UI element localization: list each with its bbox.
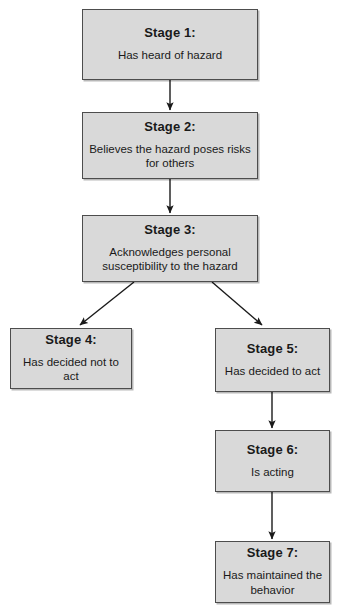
stage-3-title: Stage 3:	[144, 223, 195, 238]
arrow-stage3-to-stage4	[80, 282, 134, 325]
stage-box-1[interactable]: Stage 1: Has heard of hazard	[82, 9, 258, 80]
stage-2-description: Believes the hazard poses risks for othe…	[83, 142, 257, 171]
flowchart-canvas: Stage 1: Has heard of hazard Stage 2: Be…	[0, 0, 360, 613]
stage-box-3[interactable]: Stage 3: Acknowledges personal susceptib…	[82, 215, 258, 282]
connector-layer	[0, 0, 360, 613]
stage-3-description: Acknowledges personal susceptibility to …	[83, 245, 257, 274]
stage-box-7[interactable]: Stage 7: Has maintained the behavior	[215, 541, 330, 603]
stage-4-title: Stage 4:	[45, 333, 96, 348]
arrow-stage3-to-stage5	[212, 282, 262, 325]
stage-box-6[interactable]: Stage 6: Is acting	[215, 430, 330, 492]
stage-7-description: Has maintained the behavior	[216, 568, 329, 597]
stage-1-description: Has heard of hazard	[114, 48, 226, 63]
stage-4-description: Has decided not to act	[11, 355, 131, 384]
stage-box-5[interactable]: Stage 5: Has decided to act	[215, 328, 330, 392]
stage-2-title: Stage 2:	[144, 120, 195, 135]
stage-box-2[interactable]: Stage 2: Believes the hazard poses risks…	[82, 112, 258, 179]
stage-7-title: Stage 7:	[247, 546, 298, 561]
stage-box-4[interactable]: Stage 4: Has decided not to act	[10, 328, 132, 389]
stage-5-description: Has decided to act	[221, 364, 324, 379]
stage-6-title: Stage 6:	[247, 443, 298, 458]
stage-1-title: Stage 1:	[144, 26, 195, 41]
stage-6-description: Is acting	[247, 465, 298, 480]
stage-5-title: Stage 5:	[247, 342, 298, 357]
